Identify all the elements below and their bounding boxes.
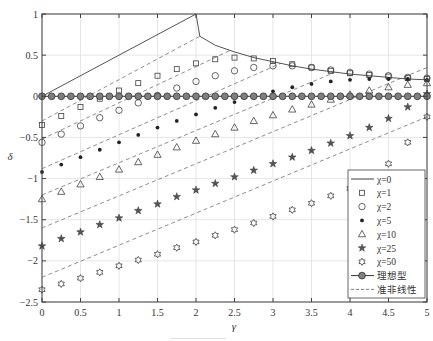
ideal-marker <box>366 93 373 100</box>
dot-marker <box>175 119 179 123</box>
triangle-marker <box>58 188 65 194</box>
ideal-marker <box>48 93 55 100</box>
ideal-marker <box>260 93 267 100</box>
dot-marker <box>348 78 352 82</box>
star-marker <box>96 221 104 228</box>
y-tick-label: −1.5 <box>20 214 38 225</box>
ideal-marker <box>173 93 180 100</box>
dot-marker <box>98 148 102 152</box>
ideal-marker <box>404 93 411 100</box>
x-tick-label: 2.5 <box>228 307 241 318</box>
ideal-marker <box>154 93 161 100</box>
circle-marker <box>251 64 257 70</box>
y-axis-label: δ <box>7 150 13 162</box>
hexagram-marker <box>97 269 103 276</box>
x-tick-label: 3.5 <box>305 307 318 318</box>
ideal-marker <box>279 93 286 100</box>
hexagram-marker <box>174 244 180 251</box>
dot-marker <box>213 106 217 110</box>
x-tick-label: 3 <box>271 307 276 318</box>
circle-marker <box>97 114 103 120</box>
circle-marker <box>135 100 141 106</box>
ideal-marker <box>231 93 238 100</box>
bottom-artifact <box>170 338 226 339</box>
ideal-marker <box>221 93 228 100</box>
dot-marker <box>59 163 63 167</box>
ideal-marker <box>125 93 132 100</box>
dashed-line <box>42 63 281 168</box>
hexagram-marker <box>328 192 334 199</box>
x-tick-label: 4.5 <box>382 307 395 318</box>
y-tick-label: 1 <box>33 9 38 20</box>
ideal-marker <box>395 93 402 100</box>
series-理想型 <box>39 93 431 100</box>
ideal-marker <box>135 93 142 100</box>
dot-marker <box>233 100 237 104</box>
y-tick-label: −2.5 <box>20 297 38 308</box>
dot-marker <box>117 140 121 144</box>
star-marker <box>134 207 142 214</box>
y-tick-label: 0.5 <box>26 50 39 61</box>
ideal-marker <box>193 93 200 100</box>
ideal-marker <box>106 93 113 100</box>
ideal-marker <box>347 93 354 100</box>
dot-marker <box>136 133 140 137</box>
star-marker <box>288 153 296 160</box>
star-marker <box>327 139 335 146</box>
dot-marker <box>79 155 83 159</box>
hexagram-marker <box>58 280 64 287</box>
ideal-marker <box>375 93 382 100</box>
dashed-line <box>42 72 335 195</box>
hexagram-marker <box>212 232 218 239</box>
x-tick-label: 2 <box>194 307 199 318</box>
ideal-marker <box>359 272 366 279</box>
dot-marker <box>290 85 294 89</box>
ideal-marker <box>164 93 171 100</box>
ideal-marker <box>337 93 344 100</box>
ideal-marker <box>289 93 296 100</box>
square-marker <box>174 67 179 72</box>
legend: χ=0χ=1χ=2χ=5χ=10χ=25χ=50理想型准非线性 <box>348 170 425 298</box>
ideal-marker <box>96 93 103 100</box>
star-marker <box>404 103 412 110</box>
ideal-marker <box>356 93 363 100</box>
y-tick-label: 0 <box>33 91 38 102</box>
hexagram-marker <box>405 139 411 146</box>
x-tick-label: 1.5 <box>151 307 164 318</box>
ideal-marker <box>58 93 65 100</box>
x-axis-label: γ <box>232 320 237 332</box>
ideal-marker <box>87 93 94 100</box>
star-marker <box>173 193 181 200</box>
triangle-marker <box>173 144 180 150</box>
ideal-marker <box>308 93 315 100</box>
ideal-marker <box>67 93 74 100</box>
dot-marker <box>329 80 333 84</box>
x-tick-label: 0 <box>40 307 45 318</box>
triangle-marker <box>135 158 142 164</box>
x-tick-label: 4 <box>348 307 353 318</box>
legend-label: 理想型 <box>377 270 407 281</box>
circle-marker <box>58 131 64 137</box>
x-tick-label: 1 <box>117 307 122 318</box>
circle-marker <box>212 73 218 79</box>
ideal-marker <box>298 93 305 100</box>
triangle-marker <box>404 81 411 87</box>
ideal-marker <box>414 93 421 100</box>
legend-label: χ=5 <box>376 216 392 226</box>
square-marker <box>59 114 64 119</box>
dashed-line <box>42 36 200 121</box>
hexagram-marker <box>135 256 141 263</box>
star-marker <box>57 235 65 242</box>
ideal-marker <box>77 93 84 100</box>
chart: 00.511.522.533.544.5510.50−0.5−1−1.5−2−2… <box>0 0 433 341</box>
dot-marker <box>310 82 314 86</box>
legend-label: χ=10 <box>376 230 396 240</box>
dot-marker <box>387 77 391 81</box>
legend-label: χ=2 <box>376 202 392 212</box>
ideal-marker <box>202 93 209 100</box>
legend-label: χ=1 <box>376 188 392 198</box>
hexagram-marker <box>289 206 295 213</box>
legend-label: χ=50 <box>376 257 396 267</box>
ideal-marker <box>270 93 277 100</box>
y-tick-label: −0.5 <box>20 132 38 143</box>
